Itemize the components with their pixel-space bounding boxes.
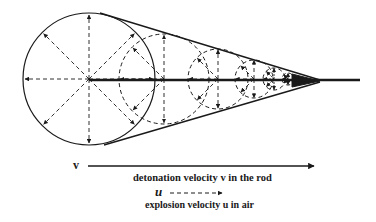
velocity-arrow bbox=[197, 58, 218, 79]
velocity-arrow bbox=[241, 66, 254, 79]
velocity-arrow bbox=[89, 79, 134, 124]
velocity-arrow bbox=[44, 79, 89, 124]
velocity-arrow bbox=[133, 79, 164, 110]
cone-lower-edge bbox=[104, 82, 320, 145]
velocity-arrow bbox=[133, 48, 164, 79]
explosion-velocity-label: explosion velocity u in air bbox=[145, 199, 254, 210]
rod-explosion-diagram bbox=[0, 0, 376, 222]
velocity-arrow bbox=[89, 34, 134, 79]
velocity-arrow bbox=[197, 79, 218, 100]
v-symbol: v bbox=[73, 158, 79, 173]
detonation-velocity-label: detonation velocity v in the rod bbox=[133, 172, 272, 183]
velocity-arrow bbox=[44, 34, 89, 79]
u-symbol: u bbox=[155, 184, 162, 200]
